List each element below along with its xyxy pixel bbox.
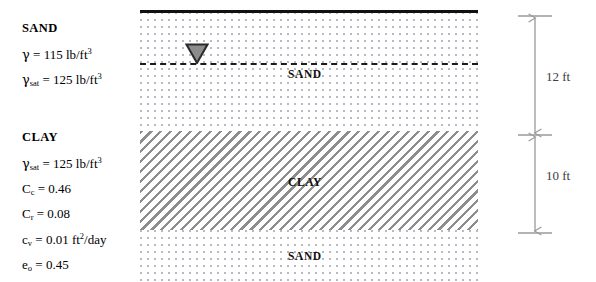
layer-label-upper-sand: SAND	[288, 68, 322, 80]
water-table-triangle-icon	[185, 43, 209, 64]
gamma-symbol: γ	[22, 155, 30, 170]
clay-saturated-unit-weight-line: γsat = 125 lb/ft3	[22, 156, 106, 171]
compression-index-line: Cc = 0.46	[22, 182, 106, 196]
eo-value: 0.45	[46, 257, 69, 272]
clay-properties-block: CLAY γsat = 125 lb/ft3 Cc = 0.46 Cr = 0.…	[22, 131, 106, 273]
initial-void-ratio-line: eo = 0.45	[22, 258, 106, 272]
cv-units-tail: /day	[84, 232, 106, 247]
dimension-label-upper: 12 ft	[546, 69, 570, 85]
cr-symbol: C	[22, 206, 31, 221]
sand-sat-subscript: sat	[30, 78, 39, 88]
gamma-symbol: γ	[22, 46, 30, 61]
ground-surface-line	[140, 10, 478, 13]
dimension-lines-svg	[498, 0, 596, 282]
clay-properties-heading: CLAY	[22, 131, 106, 144]
cc-value: 0.46	[48, 181, 71, 196]
sand-unit-weight-exponent: 3	[88, 46, 92, 56]
layer-label-lower-sand: SAND	[288, 250, 322, 262]
sand-sat-value: 125 lb/ft	[53, 72, 97, 87]
gamma-symbol: γ	[22, 72, 30, 87]
sand-properties-block: SAND γ = 115 lb/ft3 γsat = 125 lb/ft3	[22, 22, 102, 87]
eo-equals: =	[32, 257, 46, 272]
clay-sat-equals: =	[39, 155, 53, 170]
recompression-index-line: Cr = 0.08	[22, 207, 106, 221]
coefficient-of-consolidation-line: cv = 0.01 ft2/day	[22, 232, 106, 247]
clay-sat-exponent: 3	[98, 155, 102, 165]
layer-label-clay: CLAY	[288, 176, 322, 188]
sand-unit-weight-value: 115 lb/ft	[44, 46, 88, 61]
sand-saturated-unit-weight-line: γsat = 125 lb/ft3	[22, 72, 102, 87]
cv-equals: =	[32, 232, 46, 247]
cc-equals: =	[34, 181, 48, 196]
cc-symbol: C	[22, 181, 31, 196]
cr-equals: =	[34, 206, 48, 221]
sand-sat-equals: =	[39, 72, 53, 87]
dimension-annotations: 12 ft 10 ft	[498, 0, 596, 282]
dimension-label-lower: 10 ft	[546, 168, 570, 184]
cv-value: 0.01 ft	[46, 232, 80, 247]
clay-sat-value: 125 lb/ft	[53, 155, 97, 170]
sand-unit-weight-equals: =	[30, 46, 44, 61]
sand-properties-heading: SAND	[22, 22, 102, 35]
clay-sat-subscript: sat	[30, 161, 39, 171]
sand-sat-exponent: 3	[98, 71, 102, 81]
sand-unit-weight-line: γ = 115 lb/ft3	[22, 47, 102, 61]
soil-profile-figure: SAND γ = 115 lb/ft3 γsat = 125 lb/ft3 CL…	[0, 0, 596, 282]
cr-value: 0.08	[47, 206, 70, 221]
